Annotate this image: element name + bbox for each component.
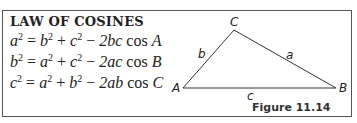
figure-caption: Figure 11.14 (252, 101, 331, 114)
vertex-label-a: A (171, 81, 180, 95)
vertex-label-b: B (339, 81, 347, 95)
vertex-label-c: C (230, 15, 239, 29)
side-label-a: a (286, 48, 293, 62)
triangle (183, 30, 336, 88)
side-label-b: b (198, 47, 206, 61)
